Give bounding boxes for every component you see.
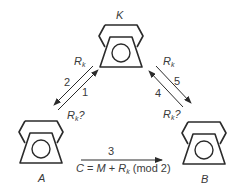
formula-label: C = M + Rk (mod 2) — [76, 162, 171, 175]
edge-label-rk-right: Rk — [163, 55, 175, 68]
node-label-a: A — [37, 172, 45, 184]
step-number-5: 5 — [174, 75, 180, 87]
step-number-1: 1 — [82, 86, 88, 98]
edge-label-rk-query-right: Rk? — [163, 108, 181, 121]
step-number-4: 4 — [155, 87, 161, 99]
step-number-3: 3 — [108, 145, 114, 157]
telephone-icon-k — [99, 25, 143, 67]
node-label-b: B — [201, 173, 208, 185]
telephone-icon-a — [19, 121, 63, 163]
key-distribution-diagram: K A B Rk 2 1 Rk? Rk 5 4 Rk? 3 C = M + Rk… — [0, 0, 244, 191]
edge-label-rk-query-left: Rk? — [67, 109, 85, 122]
edge-label-rk-left: Rk — [74, 55, 86, 68]
step-number-2: 2 — [64, 76, 70, 88]
telephone-icon-b — [182, 122, 226, 164]
node-label-k: K — [116, 9, 124, 21]
